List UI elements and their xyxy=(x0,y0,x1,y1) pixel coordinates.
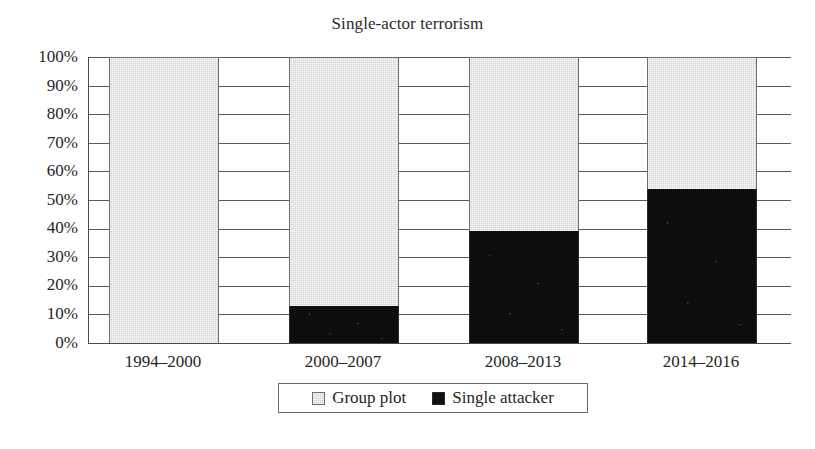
bar-segment-group-plot-2 xyxy=(289,57,399,306)
chart-legend: Group plot Single attacker xyxy=(278,383,588,413)
legend-entry-single-attacker[interactable]: Single attacker xyxy=(432,388,554,408)
plot-area xyxy=(88,57,791,344)
legend-label-single-attacker: Single attacker xyxy=(452,388,554,408)
chart-title: Single-actor terrorism xyxy=(0,14,815,34)
y-axis-label-0: 0% xyxy=(0,334,78,351)
bar-2014-2016 xyxy=(647,57,757,343)
bar-segment-single-attacker-3 xyxy=(469,231,579,343)
x-axis-label-3: 2008–2013 xyxy=(443,352,603,372)
y-axis-label-100: 100% xyxy=(0,48,78,65)
y-axis-label-40: 40% xyxy=(0,219,78,236)
y-axis-label-60: 60% xyxy=(0,162,78,179)
black-square-swatch-icon xyxy=(432,392,445,405)
y-axis-label-50: 50% xyxy=(0,191,78,208)
x-axis-label-4: 2014–2016 xyxy=(621,352,781,372)
y-axis-label-90: 90% xyxy=(0,77,78,94)
y-axis-label-70: 70% xyxy=(0,134,78,151)
gray-square-swatch-icon xyxy=(312,392,325,405)
bar-2000-2007 xyxy=(289,57,399,343)
y-axis-label-30: 30% xyxy=(0,248,78,265)
chart-figure: Single-actor terrorism 100% 90% 80% 70% … xyxy=(0,0,815,449)
y-axis-label-80: 80% xyxy=(0,105,78,122)
bar-segment-group-plot-1 xyxy=(109,57,219,343)
y-axis-label-20: 20% xyxy=(0,276,78,293)
legend-label-group-plot: Group plot xyxy=(332,388,406,408)
bar-segment-single-attacker-4 xyxy=(647,189,757,343)
legend-entry-group-plot[interactable]: Group plot xyxy=(312,388,406,408)
x-axis-label-2: 2000–2007 xyxy=(263,352,423,372)
bar-1994-2000 xyxy=(109,57,219,343)
y-axis-label-10: 10% xyxy=(0,305,78,322)
bar-segment-group-plot-3 xyxy=(469,57,579,231)
bar-segment-single-attacker-2 xyxy=(289,306,399,343)
x-axis-label-1: 1994–2000 xyxy=(83,352,243,372)
bar-2008-2013 xyxy=(469,57,579,343)
bar-segment-group-plot-4 xyxy=(647,57,757,189)
